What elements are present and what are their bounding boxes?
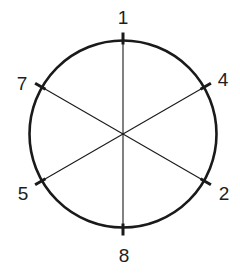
label-8: 8 xyxy=(119,245,130,266)
diameter-lines xyxy=(42,41,204,228)
circle-diagram: 1 4 2 8 5 7 xyxy=(0,0,240,276)
label-5: 5 xyxy=(18,183,29,204)
label-4: 4 xyxy=(218,69,229,90)
label-7: 7 xyxy=(17,73,28,94)
diagram-canvas: 1 4 2 8 5 7 xyxy=(0,0,240,276)
label-2: 2 xyxy=(219,183,230,204)
label-1: 1 xyxy=(118,7,129,28)
